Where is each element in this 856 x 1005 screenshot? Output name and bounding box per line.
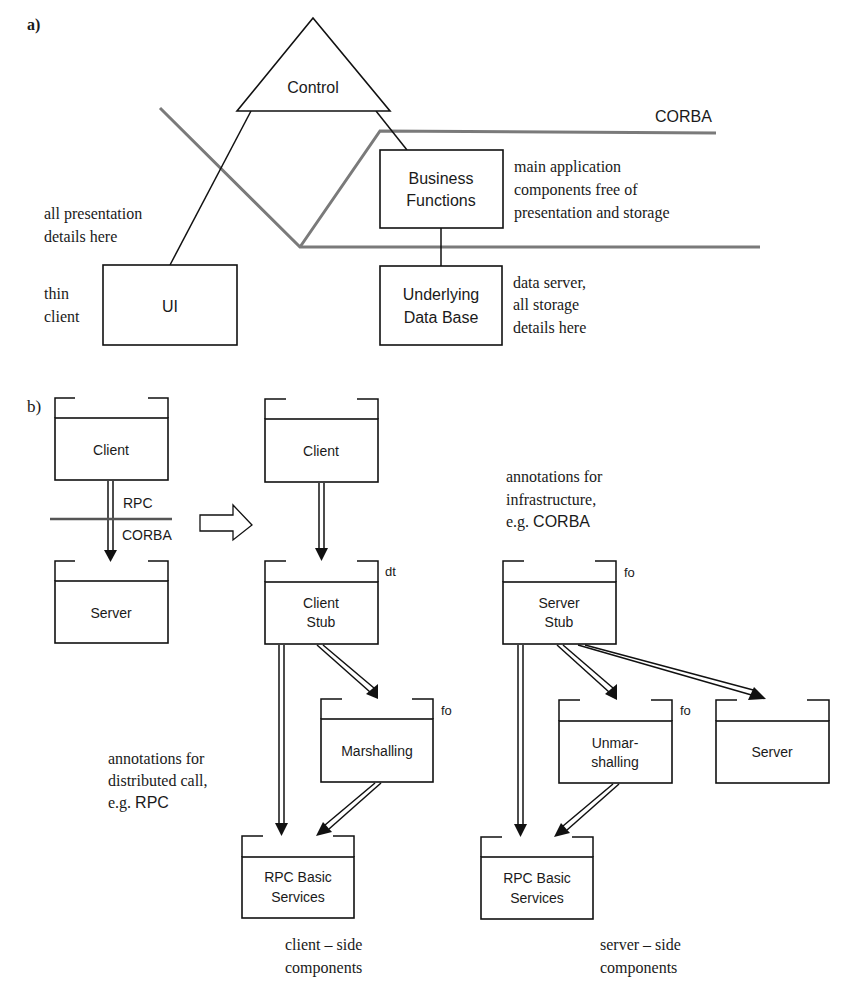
rpc-basic-client-label-2: Services xyxy=(271,889,325,905)
arrow-unmarshalling-rpc-server xyxy=(554,784,619,837)
note-infra-3: e.g. CORBA xyxy=(506,513,590,531)
corba-boundary-upper xyxy=(300,131,716,247)
rpc-basic-client-label-1: RPC Basic xyxy=(264,869,332,885)
server-label: Server xyxy=(751,744,793,760)
unmarshalling-label-1: Unmar- xyxy=(592,735,639,751)
marshalling-label: Marshalling xyxy=(341,743,413,759)
rpc-label: RPC xyxy=(123,495,153,511)
component-rpc-basic-client: RPC Basic Services xyxy=(242,836,354,918)
architecture-diagram: a) Control Business Functions Underlying… xyxy=(0,0,856,1005)
component-unmarshalling: Unmar- shalling xyxy=(559,700,672,783)
note-thin-2: client xyxy=(44,308,80,325)
client-stub-tag: dt xyxy=(385,564,396,579)
arrow-stub-marshalling xyxy=(317,645,378,699)
part-b-label: b) xyxy=(27,397,41,416)
component-client-stub: Client Stub xyxy=(265,561,378,644)
note-distributed-3: e.g. RPC xyxy=(108,794,169,812)
component-server-stub: Server Stub xyxy=(503,561,616,644)
component-rpc-basic-server: RPC Basic Services xyxy=(481,837,593,919)
server-stub-label-2: Stub xyxy=(545,614,574,630)
note-thin-1: thin xyxy=(44,285,69,302)
marshalling-tag: fo xyxy=(441,703,452,718)
arrow-marshalling-rpc-client xyxy=(316,783,381,836)
caption-server-2: components xyxy=(600,959,677,977)
component-server: Server xyxy=(716,700,829,783)
unmarshalling-tag: fo xyxy=(680,703,691,718)
transform-arrow-icon xyxy=(200,505,252,540)
caption-client-1: client – side xyxy=(285,936,362,953)
note-infra-1: annotations for xyxy=(506,468,603,485)
arrow-serverstub-rpc-server xyxy=(514,645,527,837)
part-a: a) Control Business Functions Underlying… xyxy=(27,16,760,345)
database-label-1: Underlying xyxy=(403,286,479,303)
component-left-client: Client xyxy=(55,398,168,480)
note-main-3: presentation and storage xyxy=(514,204,670,222)
note-data-1: data server, xyxy=(513,274,586,291)
component-client: Client xyxy=(265,399,378,482)
corba-label: CORBA xyxy=(655,108,712,125)
note-distributed-1: annotations for xyxy=(108,750,205,767)
note-presentation-2: details here xyxy=(44,228,117,245)
control-label: Control xyxy=(287,79,339,96)
business-label-2: Functions xyxy=(406,192,475,209)
left-server-label: Server xyxy=(90,605,132,621)
component-marshalling: Marshalling xyxy=(321,699,433,782)
left-client-label: Client xyxy=(93,442,129,458)
arrow-serverstub-server xyxy=(578,645,766,700)
server-stub-tag: fo xyxy=(624,565,635,580)
unmarshalling-label-2: shalling xyxy=(591,754,638,770)
client-label: Client xyxy=(303,443,339,459)
note-main-2: components free of xyxy=(514,181,638,199)
rpc-basic-server-label-1: RPC Basic xyxy=(503,870,571,886)
component-left-server: Server xyxy=(55,561,168,643)
business-label-1: Business xyxy=(409,170,474,187)
arrow-stub-rpc-client xyxy=(275,645,288,836)
control-triangle xyxy=(237,18,390,111)
note-infra-2: infrastructure, xyxy=(506,491,596,508)
client-stub-label-1: Client xyxy=(303,595,339,611)
arrow-client-stub xyxy=(315,483,328,561)
arrow-client-server xyxy=(104,481,117,562)
ui-label: UI xyxy=(162,298,178,315)
corba-label-b: CORBA xyxy=(122,527,172,543)
rpc-basic-server-label-2: Services xyxy=(510,890,564,906)
database-label-2: Data Base xyxy=(404,309,479,326)
business-functions-box xyxy=(380,150,503,228)
part-b: b) Client Server RPC CORBA Client xyxy=(27,397,829,977)
note-data-3: details here xyxy=(513,319,586,336)
database-box xyxy=(380,266,502,345)
caption-server-1: server – side xyxy=(600,936,681,953)
client-stub-label-2: Stub xyxy=(307,614,336,630)
server-stub-label-1: Server xyxy=(538,595,580,611)
part-a-label: a) xyxy=(27,16,40,34)
caption-client-2: components xyxy=(285,959,362,977)
note-presentation-1: all presentation xyxy=(44,205,142,223)
note-data-2: all storage xyxy=(513,296,579,314)
note-distributed-2: distributed call, xyxy=(108,772,208,789)
note-main-1: main application xyxy=(514,158,621,176)
